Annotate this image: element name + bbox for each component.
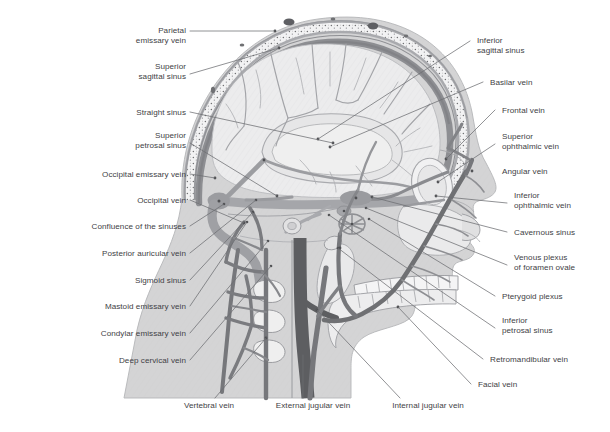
label-posterior-auricular-vein: Posterior auricular vein	[28, 249, 186, 259]
label-superior-ophthalmic-vein: Superior ophthalmic vein	[502, 132, 559, 152]
label-sigmoid-sinus: Sigmoid sinus	[75, 276, 186, 286]
label-inferior-petrosal-sinus: Inferior petrosal sinus	[502, 316, 553, 336]
label-external-jugular-vein: External jugular vein	[258, 401, 368, 411]
label-facial-vein: Facial vein	[478, 380, 517, 390]
label-inferior-sagittal-sinus: Inferior sagittal sinus	[477, 36, 525, 56]
label-retromandibular-vein: Retromandibular vein	[490, 355, 568, 365]
label-vertebral-vein: Vertebral vein	[170, 401, 248, 411]
label-occipital-emissary-vein: Occipital emissary vein	[30, 170, 186, 180]
label-parietal-emissary-vein: Parietal emissary vein	[98, 26, 186, 46]
label-venous-plexus-of-foramen-ovale: Venous plexus of foramen ovale	[514, 253, 575, 273]
label-occipital-vein: Occipital vein	[75, 196, 186, 206]
label-inferior-ophthalmic-vein: Inferior ophthalmic vein	[514, 191, 571, 211]
label-angular-vein: Angular vein	[502, 167, 548, 177]
label-superior-sagittal-sinus: Superior sagittal sinus	[85, 62, 186, 82]
label-cavernous-sinus: Cavernous sinus	[514, 228, 575, 238]
label-pterygoid-plexus: Pterygoid plexus	[502, 292, 563, 302]
label-deep-cervical-vein: Deep cervical vein	[55, 356, 186, 366]
label-internal-jugular-vein: Internal jugular vein	[373, 401, 483, 411]
label-condylar-emissary-vein: Condylar emissary vein	[30, 329, 186, 339]
leader-line-facial-vein	[398, 307, 471, 384]
label-superior-petrosal-sinus: Superior petrosal sinus	[85, 131, 186, 151]
label-confluence-of-the-sinuses: Confluence of the sinuses	[15, 222, 186, 232]
label-basilar-vein: Basilar vein	[490, 78, 532, 88]
label-frontal-vein: Frontal vein	[502, 106, 545, 116]
label-straight-sinus: Straight sinus	[75, 108, 186, 118]
label-mastoid-emissary-vein: Mastoid emissary vein	[35, 302, 186, 312]
